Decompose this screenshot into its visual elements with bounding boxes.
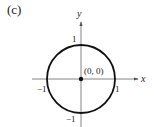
x-axis-label: x [140,73,146,84]
graph: y x 1 −1 −1 1 (0, 0) [0,0,154,127]
x-tick-neg1: −1 [37,84,47,94]
center-label: (0, 0) [84,66,104,76]
y-tick-neg1: −1 [66,114,76,124]
x-tick-1: 1 [115,84,120,94]
y-tick-1: 1 [72,34,77,44]
center-point [79,77,83,81]
y-axis-label: y [76,8,82,19]
